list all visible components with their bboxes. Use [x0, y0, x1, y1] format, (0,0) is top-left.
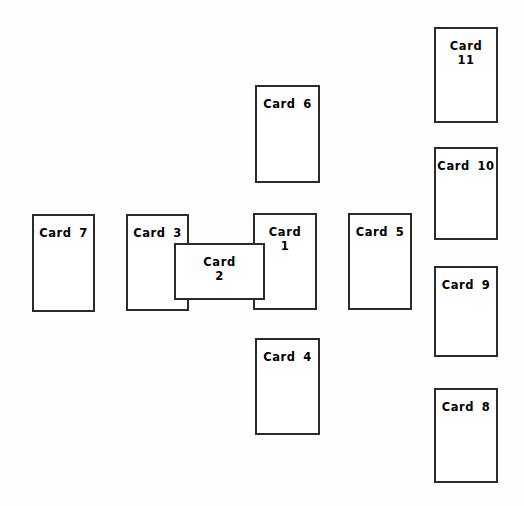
card-8-label: Card 8	[436, 390, 496, 414]
card-9[interactable]: Card 9	[434, 266, 498, 357]
card-5-label: Card 5	[350, 215, 410, 239]
card-7-label: Card 7	[34, 216, 93, 240]
card-9-label: Card 9	[436, 268, 496, 292]
card-canvas: Card 1Card 2Card 3Card 4Card 5Card 6Card…	[0, 0, 524, 506]
card-8[interactable]: Card 8	[434, 388, 498, 483]
card-6[interactable]: Card 6	[255, 85, 320, 183]
card-6-label: Card 6	[257, 87, 318, 111]
card-2[interactable]: Card 2	[174, 243, 265, 300]
card-11-label: Card 11	[436, 29, 496, 67]
card-4[interactable]: Card 4	[255, 338, 320, 435]
card-7[interactable]: Card 7	[32, 214, 95, 312]
card-10-label: Card 10	[436, 149, 496, 173]
card-2-label: Card 2	[176, 245, 263, 283]
card-5[interactable]: Card 5	[348, 213, 412, 310]
card-4-label: Card 4	[257, 340, 318, 364]
card-10[interactable]: Card 10	[434, 147, 498, 240]
card-11[interactable]: Card 11	[434, 27, 498, 123]
card-3-label: Card 3	[128, 216, 187, 240]
